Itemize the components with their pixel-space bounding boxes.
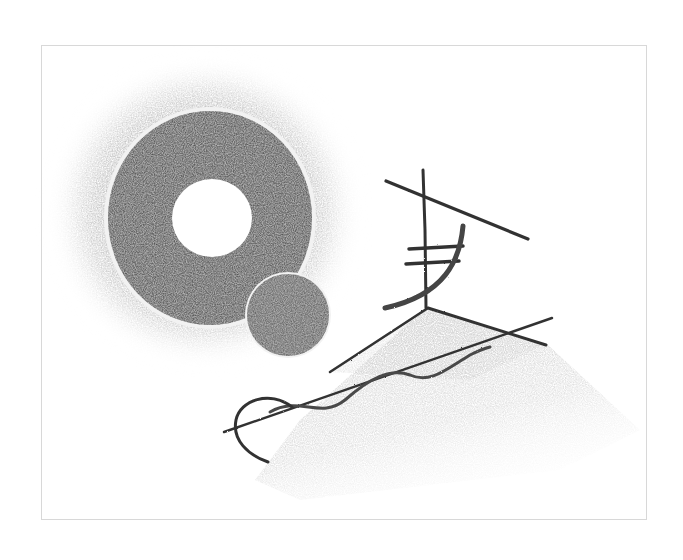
ring-hole (172, 179, 252, 257)
pencil-artwork (0, 0, 683, 560)
short-line-1 (409, 246, 463, 249)
small-disc (245, 272, 331, 358)
vertical-line (423, 170, 426, 308)
top-diagonal-line (386, 181, 528, 239)
